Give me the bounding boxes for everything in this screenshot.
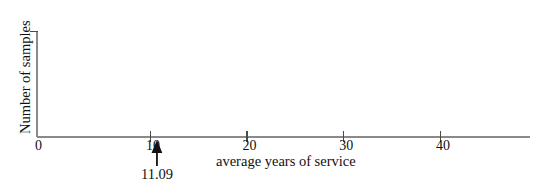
x-axis-tick-label-40: 40	[436, 139, 450, 153]
y-axis-line	[36, 31, 38, 137]
y-axis-title: Number of samples	[18, 11, 33, 143]
mean-marker-label: 11.09	[141, 167, 173, 182]
x-axis-tick-label-30: 30	[339, 139, 353, 153]
origin-tick-label: 0	[35, 139, 42, 153]
chart-figure: 10 20 30 40 0 Number of samples average …	[0, 0, 555, 193]
x-axis-line	[37, 136, 530, 138]
mean-marker-annotation: 11.09	[141, 140, 173, 182]
up-arrow-icon	[150, 140, 164, 166]
x-axis-tick-label-20: 20	[243, 139, 257, 153]
x-axis-title: average years of service	[216, 154, 356, 169]
